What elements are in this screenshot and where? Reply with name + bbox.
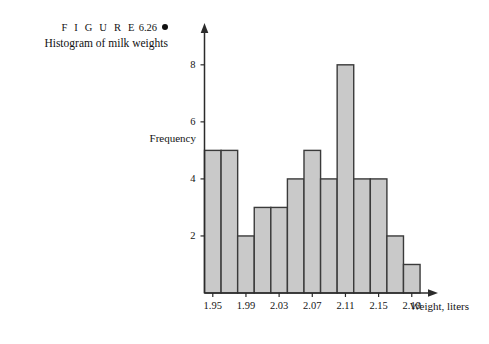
histogram-bar: [271, 207, 288, 293]
histogram-bar: [337, 65, 354, 293]
x-axis-title: Weight, liters: [410, 300, 469, 312]
histogram-bar: [403, 264, 420, 293]
x-axis-ticks: 1.951.992.032.072.112.152.19: [204, 293, 421, 311]
histogram-chart: 2468 1.951.992.032.072.112.152.19 Freque…: [0, 0, 489, 344]
y-tick-label: 2: [190, 230, 195, 241]
histogram-bar: [254, 207, 271, 293]
histogram-bar: [354, 179, 371, 293]
y-tick-label: 6: [190, 116, 195, 127]
y-axis-ticks: 2468: [190, 59, 204, 241]
x-tick-label: 2.15: [369, 300, 387, 311]
y-axis-title: Frequency: [150, 132, 197, 144]
histogram-bar: [387, 236, 404, 293]
histogram-bar: [238, 236, 255, 293]
bars-group: [205, 65, 421, 293]
y-tick-label: 4: [190, 173, 196, 184]
histogram-bar: [205, 150, 222, 293]
histogram-bar: [221, 150, 238, 293]
histogram-svg: 2468 1.951.992.032.072.112.152.19 Freque…: [0, 0, 489, 344]
x-tick-label: 1.95: [204, 300, 222, 311]
x-tick-label: 1.99: [237, 300, 255, 311]
x-tick-label: 2.11: [336, 300, 354, 311]
histogram-bar: [304, 150, 321, 293]
x-axis-arrowhead-icon: [428, 289, 438, 297]
histogram-bar: [321, 179, 338, 293]
x-tick-label: 2.07: [303, 300, 321, 311]
x-tick-label: 2.03: [270, 300, 288, 311]
y-tick-label: 8: [190, 59, 195, 70]
histogram-bar: [287, 179, 304, 293]
y-axis-arrowhead-icon: [201, 23, 209, 33]
histogram-bar: [370, 179, 387, 293]
